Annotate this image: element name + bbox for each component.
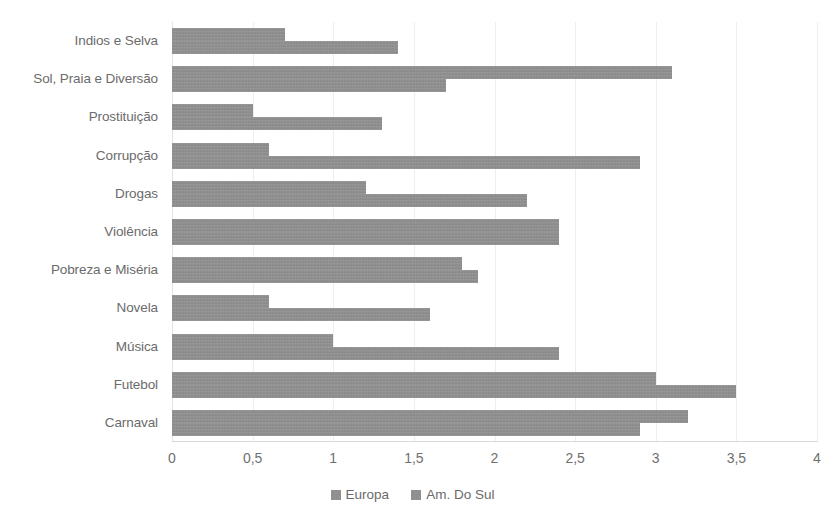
y-axis-label: Carnaval (105, 416, 158, 430)
bar-group (172, 410, 817, 440)
bar-group (172, 372, 817, 402)
x-axis-tick: 4 (813, 450, 821, 466)
y-axis-label: Futebol (114, 378, 158, 392)
x-axis-tick: 0 (168, 450, 176, 466)
bar-europa (172, 372, 656, 385)
bar-am-do-sul (172, 385, 736, 398)
y-axis-label: Música (116, 340, 158, 354)
bar-europa (172, 257, 462, 270)
bar-am-do-sul (172, 194, 527, 207)
legend-label: Europa (346, 487, 390, 502)
x-axis-tick-labels: 00,511,522,533,54 (0, 450, 825, 474)
legend-swatch-icon (331, 490, 341, 500)
bar-group (172, 219, 817, 249)
bar-group (172, 104, 817, 134)
y-axis-label: Drogas (115, 187, 158, 201)
bar-am-do-sul (172, 308, 430, 321)
bar-europa (172, 219, 559, 232)
bar-group (172, 295, 817, 325)
bar-am-do-sul (172, 347, 559, 360)
x-axis-line (172, 441, 818, 442)
legend-item[interactable]: Am. Do Sul (411, 487, 494, 502)
y-axis-category-labels: Indios e SelvaSol, Praia e DiversãoProst… (0, 22, 166, 442)
x-axis-tick: 1,5 (404, 450, 423, 466)
bar-europa (172, 295, 269, 308)
bar-group (172, 181, 817, 211)
bar-group (172, 66, 817, 96)
legend-swatch-icon (411, 490, 421, 500)
x-axis-tick: 0,5 (243, 450, 262, 466)
bar-europa (172, 104, 253, 117)
x-axis-tick: 1 (329, 450, 337, 466)
x-axis-tick: 3 (652, 450, 660, 466)
legend-label: Am. Do Sul (426, 487, 494, 502)
y-axis-label: Corrupção (96, 149, 158, 163)
bar-am-do-sul (172, 41, 398, 54)
y-axis-label: Novela (117, 301, 158, 315)
x-axis-tick: 2,5 (565, 450, 584, 466)
bar-am-do-sul (172, 232, 559, 245)
bar-group (172, 257, 817, 287)
bar-am-do-sul (172, 117, 382, 130)
bar-europa (172, 334, 333, 347)
bar-group (172, 334, 817, 364)
gridline-4 (817, 22, 818, 442)
bar-europa (172, 66, 672, 79)
y-axis-label: Pobreza e Miséria (51, 263, 158, 277)
y-axis-label: Prostituição (89, 110, 158, 124)
y-axis-label: Violência (104, 225, 158, 239)
bar-group (172, 28, 817, 58)
x-axis-tick: 3,5 (727, 450, 746, 466)
bar-am-do-sul (172, 156, 640, 169)
bar-am-do-sul (172, 423, 640, 436)
bar-am-do-sul (172, 270, 478, 283)
bar-group (172, 143, 817, 173)
bar-europa (172, 181, 366, 194)
y-axis-label: Sol, Praia e Diversão (33, 72, 158, 86)
bar-europa (172, 143, 269, 156)
bar-am-do-sul (172, 79, 446, 92)
bar-chart: Indios e SelvaSol, Praia e DiversãoProst… (0, 0, 825, 515)
x-axis-tick: 2 (491, 450, 499, 466)
chart-legend: EuropaAm. Do Sul (0, 487, 825, 502)
bar-europa (172, 28, 285, 41)
bar-europa (172, 410, 688, 423)
legend-item[interactable]: Europa (331, 487, 390, 502)
y-axis-label: Indios e Selva (75, 34, 158, 48)
plot-area (172, 22, 817, 442)
